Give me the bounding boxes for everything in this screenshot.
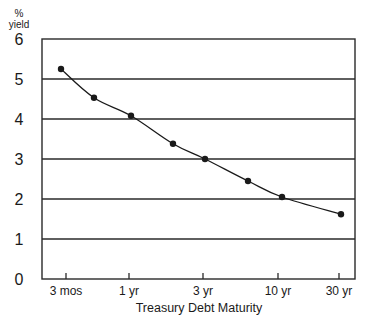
x-tick-label: 3 yr [193, 284, 213, 298]
data-point-marker [91, 95, 97, 101]
data-point-marker [279, 194, 285, 200]
data-point-marker [170, 141, 176, 147]
data-point-marker [128, 113, 134, 119]
y-tick-label: 6 [15, 31, 24, 48]
x-tick-label: 30 yr [326, 284, 353, 298]
data-point-marker [202, 156, 208, 162]
y-tick-label: 4 [15, 111, 24, 128]
y-tick-label: 1 [15, 231, 24, 248]
y-unit-percent: % [15, 8, 24, 19]
y-tick-label: 0 [15, 271, 24, 288]
y-tick-label: 3 [15, 151, 24, 168]
data-point-marker [58, 66, 64, 72]
y-axis-unit-label: % yield [9, 8, 30, 30]
x-axis-ticks: 3 mos1 yr3 yr10 yr30 yr [50, 273, 353, 298]
x-tick-label: 10 yr [265, 284, 292, 298]
x-axis-title: Treasury Debt Maturity [136, 301, 263, 315]
gridlines [42, 79, 355, 239]
yield-curve-line [61, 69, 341, 214]
yield-data-points [58, 66, 344, 218]
x-tick-label: 1 yr [119, 284, 139, 298]
data-point-marker [245, 178, 251, 184]
data-point-marker [338, 211, 344, 217]
x-tick-label: 3 mos [50, 284, 83, 298]
y-axis-ticks: 0123456 [15, 31, 24, 288]
yield-curve-chart: % yield 0123456 3 mos1 yr3 yr10 yr30 yr … [0, 0, 368, 328]
y-tick-label: 2 [15, 191, 24, 208]
y-tick-label: 5 [15, 71, 24, 88]
y-unit-yield: yield [9, 19, 30, 30]
